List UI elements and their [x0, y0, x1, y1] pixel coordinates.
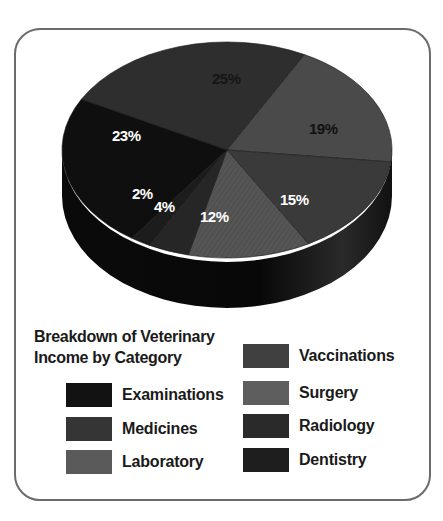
legend-swatch — [243, 414, 289, 438]
legend-label: Medicines — [122, 420, 198, 438]
label-examinations-pct: 23% — [112, 127, 141, 144]
legend-item-radiology: Radiology — [243, 414, 375, 438]
legend-label: Radiology — [299, 417, 375, 435]
legend-item-laboratory: Laboratory — [66, 450, 204, 474]
legend-item-dentistry: Dentistry — [243, 448, 367, 472]
legend-swatch — [243, 344, 289, 368]
legend-label: Surgery — [299, 384, 358, 402]
legend-swatch — [243, 448, 289, 472]
legend-item-vaccinations: Vaccinations — [243, 344, 394, 368]
label-vaccinations-pct: 19% — [309, 120, 338, 137]
legend-swatch — [66, 383, 112, 407]
legend-label: Laboratory — [122, 453, 204, 471]
label-surgery-pct: 12% — [200, 208, 229, 225]
legend-title-line1: Breakdown of Veterinary — [34, 326, 234, 347]
legend-item-examinations: Examinations — [66, 383, 224, 407]
legend-label: Examinations — [122, 386, 224, 404]
label-medicines-pct: 25% — [212, 70, 241, 87]
label-laboratory-pct: 2% — [132, 185, 153, 202]
label-radiology-pct: 15% — [280, 191, 309, 208]
legend-swatch — [66, 417, 112, 441]
legend-title-line2: Income by Category — [34, 347, 234, 368]
legend-swatch — [243, 381, 289, 405]
legend-item-medicines: Medicines — [66, 417, 198, 441]
label-dentistry-pct: 4% — [154, 198, 175, 215]
legend-title: Breakdown of Veterinary Income by Catego… — [34, 326, 234, 368]
legend-item-surgery: Surgery — [243, 381, 358, 405]
legend-label: Dentistry — [299, 451, 367, 469]
legend-label: Vaccinations — [299, 347, 394, 365]
legend-swatch — [66, 450, 112, 474]
